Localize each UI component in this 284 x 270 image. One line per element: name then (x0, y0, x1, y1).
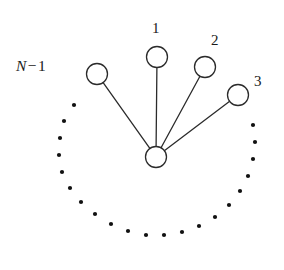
graph-canvas (0, 0, 284, 270)
edge-hub-n-minus-1 (103, 82, 150, 149)
node-label-n-minus-1: N−1 (16, 58, 46, 74)
node-n-minus-1[interactable] (87, 64, 108, 85)
edge-hub-3 (164, 101, 230, 151)
ellipsis-dot (126, 229, 130, 233)
ellipsis-dot (251, 157, 255, 161)
node-1[interactable] (147, 47, 168, 68)
ellipsis-dot (162, 233, 166, 237)
node-2[interactable] (195, 57, 216, 78)
ellipsis-dot (238, 189, 242, 193)
ellipsis-dot (253, 140, 257, 144)
ellipsis-dot (213, 215, 217, 219)
ellipsis-dot (79, 200, 83, 204)
ellipsis-dot (251, 123, 255, 127)
ellipsis-dot (144, 233, 148, 237)
ellipsis-dot (68, 186, 72, 190)
ellipsis-dot (62, 119, 66, 123)
label-minus-operator: − (26, 57, 38, 74)
edge-hub-2 (161, 76, 200, 148)
node-label-2: 2 (211, 33, 219, 48)
node-label-3: 3 (254, 74, 262, 89)
edge-hub-1 (156, 67, 157, 147)
star-graph-figure: N−1 1 2 3 (0, 0, 284, 270)
ellipsis-dot (109, 222, 113, 226)
ellipsis-dot (60, 170, 64, 174)
ellipsis-dot (197, 224, 201, 228)
ellipsis-dot (227, 203, 231, 207)
node-label-1: 1 (152, 21, 160, 36)
ellipsis-dot (246, 174, 250, 178)
ellipsis-dot (72, 103, 76, 107)
ellipsis-dot (180, 230, 184, 234)
label-number-1: 1 (38, 57, 46, 74)
label-variable-n: N (16, 57, 26, 74)
nodes-group (87, 47, 249, 168)
hub-node[interactable] (146, 147, 167, 168)
ellipsis-dot (93, 212, 97, 216)
ellipsis-dot (57, 153, 61, 157)
edges-group (103, 67, 230, 151)
ellipsis-dots-group (57, 103, 257, 237)
ellipsis-dot (58, 136, 62, 140)
node-3[interactable] (228, 85, 249, 106)
